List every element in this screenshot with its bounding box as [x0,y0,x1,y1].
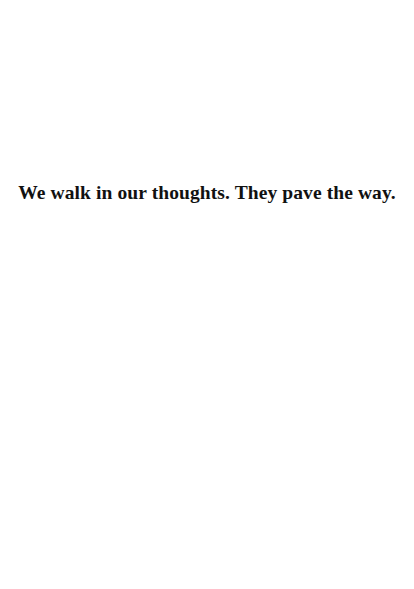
document-page: We walk in our thoughts. They pave the w… [0,0,414,589]
quote-text: We walk in our thoughts. They pave the w… [0,181,414,205]
